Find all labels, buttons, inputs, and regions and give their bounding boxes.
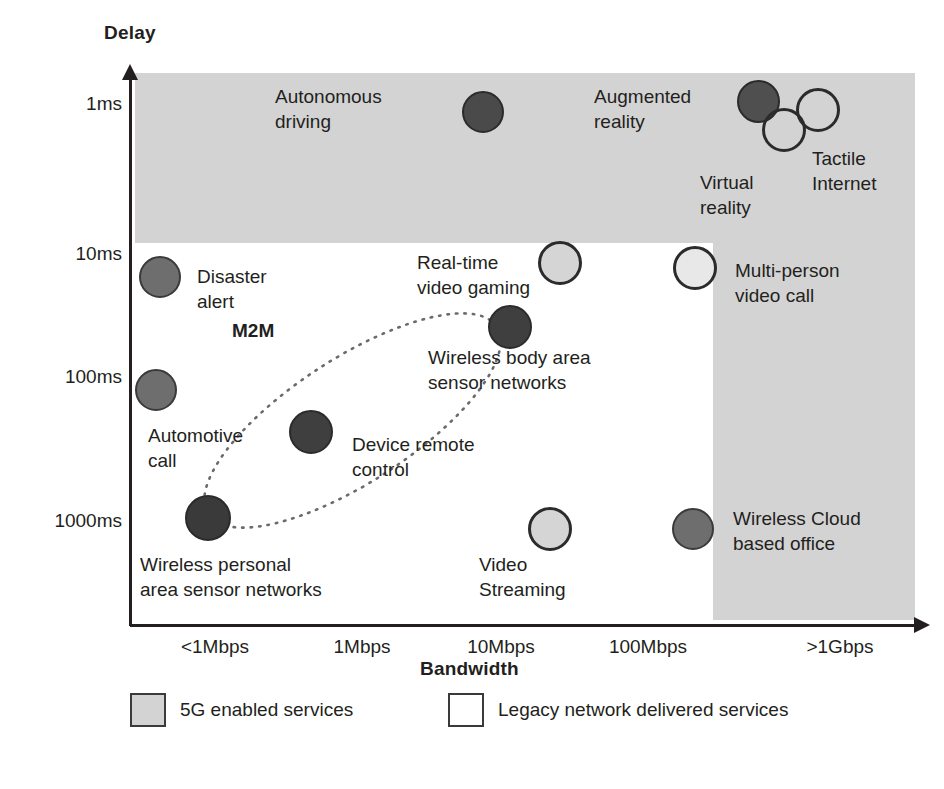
label-device-remote-control: Device remote control	[352, 432, 475, 482]
label-tactile-internet: Tactile Internet	[812, 146, 876, 196]
x-axis-arrow-icon	[914, 617, 930, 633]
label-video-streaming: Video Streaming	[479, 552, 566, 602]
bubble-automotive-call[interactable]	[135, 369, 177, 411]
bubble-multi-person-video-call[interactable]	[673, 246, 717, 290]
bubble-device-remote-control[interactable]	[289, 410, 333, 454]
y-tick-1000ms: 1000ms	[14, 510, 122, 532]
bubble-wireless-body-area-sensor-networks[interactable]	[488, 305, 532, 349]
bubble-realtime-video-gaming[interactable]	[538, 241, 582, 285]
chart-figure: Delay Bandwidth 1ms 10ms 100ms 1000ms <1…	[0, 0, 944, 789]
bubble-wireless-cloud-based-office[interactable]	[672, 508, 714, 550]
y-axis-title: Delay	[104, 22, 156, 44]
label-wireless-cloud-based-office: Wireless Cloud based office	[733, 506, 861, 556]
y-axis-arrow-icon	[122, 64, 138, 80]
label-multi-person-video-call: Multi-person video call	[735, 258, 840, 308]
chart-legend: 5G enabled services Legacy network deliv…	[130, 693, 890, 737]
label-realtime-video-gaming: Real-time video gaming	[417, 250, 530, 300]
legend-label-5g: 5G enabled services	[180, 699, 353, 721]
legend-swatch-5g-icon	[130, 693, 166, 727]
y-tick-10ms: 10ms	[38, 243, 122, 265]
y-tick-1ms: 1ms	[48, 93, 122, 115]
y-tick-100ms: 100ms	[28, 366, 122, 388]
label-augmented-reality: Augmented reality	[594, 84, 691, 134]
legend-swatch-legacy-icon	[448, 693, 484, 727]
bubble-video-streaming[interactable]	[528, 507, 572, 551]
legend-item-5g[interactable]: 5G enabled services	[130, 693, 353, 727]
label-wireless-personal-area-sensor-networks: Wireless personal area sensor networks	[140, 552, 322, 602]
x-tick-gt1gbps: >1Gbps	[778, 636, 902, 658]
legend-label-legacy: Legacy network delivered services	[498, 699, 788, 721]
bubble-wireless-personal-area-sensor-networks[interactable]	[185, 495, 231, 541]
x-axis-title: Bandwidth	[420, 658, 519, 680]
x-tick-lt1mbps: <1Mbps	[155, 636, 275, 658]
x-tick-10mbps: 10Mbps	[440, 636, 562, 658]
label-autonomous-driving: Autonomous driving	[275, 84, 382, 134]
x-axis-line	[130, 624, 920, 627]
bubble-autonomous-driving[interactable]	[462, 91, 504, 133]
label-disaster-alert: Disaster alert	[197, 264, 267, 314]
m2m-group-label: M2M	[232, 320, 274, 342]
label-wireless-body-area-sensor-networks: Wireless body area sensor networks	[428, 345, 591, 395]
x-tick-1mbps: 1Mbps	[303, 636, 421, 658]
x-tick-100mbps: 100Mbps	[583, 636, 713, 658]
legend-item-legacy[interactable]: Legacy network delivered services	[448, 693, 788, 727]
bubble-disaster-alert[interactable]	[139, 256, 181, 298]
bubble-virtual-reality[interactable]	[762, 108, 806, 152]
label-virtual-reality: Virtual reality	[700, 170, 754, 220]
y-axis-line	[129, 78, 132, 626]
label-automotive-call: Automotive call	[148, 423, 243, 473]
